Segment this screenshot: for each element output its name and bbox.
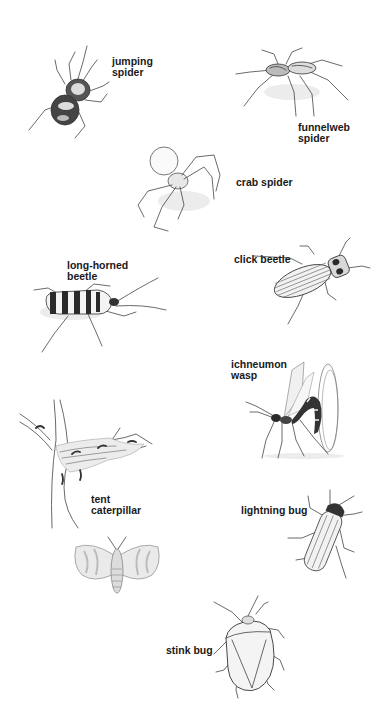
label-line: stink bug (166, 645, 213, 656)
label-line: caterpillar (91, 505, 141, 516)
label-line: wasp (231, 370, 287, 381)
lightning-bug-illustration (274, 486, 364, 580)
ichneumon-wasp-label: ichneumon wasp (231, 359, 287, 381)
label-line: spider (112, 67, 153, 78)
specimen-plate: jumping spider funnelweb spider (0, 0, 387, 720)
label-line: beetle (67, 271, 128, 282)
jumping-spider-label: jumping spider (112, 56, 153, 78)
crab-spider-illustration (134, 145, 228, 233)
label-line: lightning bug (241, 505, 307, 516)
label-line: spider (298, 133, 350, 144)
click-beetle-illustration (250, 238, 372, 328)
funnelweb-spider-label: funnelweb spider (298, 122, 350, 144)
stink-bug-illustration (212, 594, 288, 700)
tent-caterpillar-label: tent caterpillar (91, 494, 141, 516)
label-line: crab spider (236, 177, 293, 188)
crab-spider-label: crab spider (236, 177, 293, 188)
click-beetle-label: click beetle (234, 254, 291, 265)
lightning-bug-label: lightning bug (241, 505, 307, 516)
funnelweb-spider-illustration (232, 44, 352, 120)
long-horned-beetle-illustration (32, 274, 168, 358)
stink-bug-label: stink bug (166, 645, 213, 656)
jumping-spider-illustration (25, 42, 115, 142)
tent-caterpillar-moth-illustration (72, 535, 162, 597)
label-line: click beetle (234, 254, 291, 265)
long-horned-beetle-label: long-horned beetle (67, 260, 128, 282)
